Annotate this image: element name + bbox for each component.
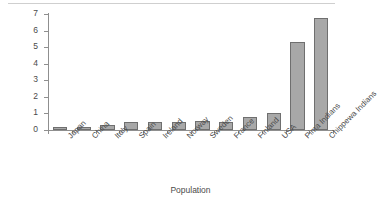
y-tick-label: 1: [33, 107, 38, 117]
y-tick: 2: [44, 97, 48, 98]
x-tick: [48, 130, 49, 134]
y-tick: 4: [44, 64, 48, 65]
y-tick-label: 0: [33, 124, 38, 134]
bar: [290, 42, 304, 130]
y-tick: 5: [44, 47, 48, 48]
top-divider: [8, 3, 335, 4]
y-tick-label: 5: [33, 41, 38, 51]
plot-area: 01234567: [48, 14, 333, 130]
y-tick: 3: [44, 80, 48, 81]
y-tick-label: 2: [33, 91, 38, 101]
x-axis-title: Population: [48, 185, 333, 195]
y-tick-label: 3: [33, 74, 38, 84]
y-tick-label: 7: [33, 8, 38, 18]
y-tick-label: 6: [33, 25, 38, 35]
y-tick: 7: [44, 14, 48, 15]
y-tick: 1: [44, 113, 48, 114]
y-tick-label: 4: [33, 58, 38, 68]
bar: [53, 127, 67, 130]
y-tick: 6: [44, 31, 48, 32]
